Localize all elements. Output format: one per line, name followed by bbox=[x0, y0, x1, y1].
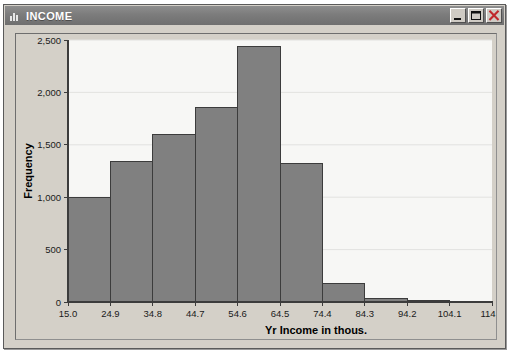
x-tick-label: 84.3 bbox=[356, 308, 375, 319]
x-tick-label: 94.2 bbox=[398, 308, 417, 319]
bar-chart-icon bbox=[9, 10, 21, 22]
x-tick-label: 114.0 bbox=[480, 308, 496, 319]
x-tick-label: 34.8 bbox=[144, 308, 163, 319]
histogram-bar bbox=[322, 283, 364, 302]
x-tick-label: 15.0 bbox=[59, 308, 78, 319]
maximize-button[interactable] bbox=[468, 8, 484, 23]
close-button[interactable] bbox=[486, 8, 502, 23]
maximize-icon bbox=[469, 9, 483, 22]
y-tick-label: 2,500 bbox=[37, 35, 61, 46]
x-tick-label: 64.5 bbox=[271, 308, 290, 319]
histogram-chart: 05001,0001,5002,0002,500 15.024.934.844.… bbox=[16, 34, 496, 339]
close-icon bbox=[487, 9, 501, 22]
y-tick-label: 1,500 bbox=[37, 139, 61, 150]
histogram-bar bbox=[238, 46, 280, 302]
x-tick-label: 44.7 bbox=[186, 308, 205, 319]
window-title: INCOME bbox=[26, 10, 448, 22]
histogram-bar bbox=[195, 107, 237, 302]
income-window: INCOME bbox=[3, 4, 506, 349]
y-axis-title: Frequency bbox=[22, 142, 34, 199]
histogram-bar bbox=[153, 134, 195, 302]
x-tick-label: 54.6 bbox=[228, 308, 247, 319]
x-axis-title: Yr Income in thous. bbox=[265, 324, 367, 336]
x-tick-label: 74.4 bbox=[313, 308, 332, 319]
minimize-icon bbox=[451, 9, 465, 22]
window-titlebar[interactable]: INCOME bbox=[5, 6, 504, 25]
x-axis-ticks: 15.024.934.844.754.664.574.484.394.2104.… bbox=[59, 302, 496, 319]
x-tick-label: 104.1 bbox=[438, 308, 462, 319]
chart-frame: 05001,0001,5002,0002,500 15.024.934.844.… bbox=[15, 33, 497, 340]
histogram-bar bbox=[68, 197, 110, 302]
histogram-bar bbox=[110, 162, 152, 302]
y-axis-ticks: 05001,0001,5002,0002,500 bbox=[37, 35, 68, 308]
minimize-button[interactable] bbox=[450, 8, 466, 23]
x-tick-label: 24.9 bbox=[101, 308, 120, 319]
y-tick-label: 1,000 bbox=[37, 192, 61, 203]
y-tick-label: 500 bbox=[45, 244, 61, 255]
histogram-bar bbox=[280, 164, 322, 302]
y-tick-label: 0 bbox=[56, 297, 61, 308]
y-tick-label: 2,000 bbox=[37, 87, 61, 98]
window-client-area: 05001,0001,5002,0002,500 15.024.934.844.… bbox=[5, 25, 504, 347]
